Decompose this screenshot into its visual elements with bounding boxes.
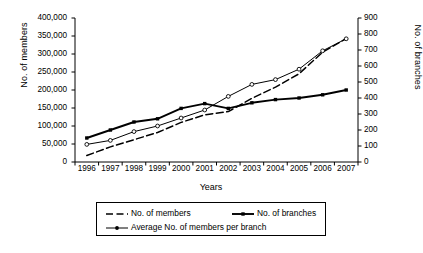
data-point-marker — [274, 78, 278, 82]
data-point-marker — [132, 120, 135, 123]
data-point-marker — [274, 98, 277, 101]
data-point-marker — [321, 93, 324, 96]
data-point-marker — [250, 101, 253, 104]
legend-swatch-2 — [105, 223, 129, 233]
data-point-marker — [108, 139, 112, 143]
data-point-marker — [321, 49, 325, 53]
data-point-marker — [156, 124, 160, 128]
data-point-marker — [297, 96, 300, 99]
legend-swatch-0 — [105, 209, 129, 219]
legend-label-1: No. of branches — [257, 208, 316, 218]
legend-label-0: No. of members — [131, 208, 191, 218]
data-point-marker — [132, 130, 136, 134]
series-line-1 — [87, 90, 346, 138]
data-point-marker — [156, 117, 159, 120]
data-point-marker — [297, 67, 301, 71]
data-point-marker — [345, 88, 348, 91]
data-point-marker — [344, 37, 348, 41]
data-point-marker — [227, 107, 230, 110]
data-point-marker — [226, 95, 230, 99]
data-point-marker — [203, 108, 207, 112]
data-point-marker — [179, 107, 182, 110]
legend-swatch-1 — [231, 209, 255, 219]
data-point-marker — [203, 102, 206, 105]
data-point-marker — [250, 83, 254, 87]
series-line-2 — [87, 39, 346, 145]
data-point-marker — [85, 143, 89, 147]
data-point-marker — [179, 116, 183, 120]
data-point-marker — [85, 136, 88, 139]
chart-legend: No. of membersNo. of branchesAverage No.… — [96, 202, 326, 236]
legend-label-2: Average No. of members per branch — [131, 222, 266, 232]
data-point-marker — [109, 128, 112, 131]
